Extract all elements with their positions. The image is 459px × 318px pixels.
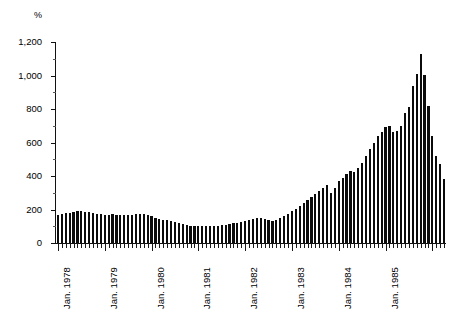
bar (357, 168, 359, 243)
x-axis-tick-label: Jan. 1984 (343, 267, 353, 309)
x-axis-minor-tick-mark (343, 244, 344, 248)
x-axis-minor-tick-mark (389, 244, 390, 248)
bar (80, 211, 82, 243)
x-axis-minor-tick-mark (128, 244, 129, 248)
x-axis-minor-tick-mark (124, 244, 125, 248)
bar (369, 149, 371, 243)
x-axis-minor-tick-mark (175, 244, 176, 248)
x-axis-major-tick-mark (152, 244, 153, 251)
x-axis-minor-tick-mark (358, 244, 359, 248)
bar (345, 174, 347, 243)
bar (193, 226, 195, 243)
x-axis-minor-tick-mark (230, 244, 231, 248)
x-axis-minor-tick-mark (155, 244, 156, 248)
x-axis-minor-tick-mark (409, 244, 410, 248)
x-axis-tick-label: Jan. 1981 (202, 267, 212, 309)
bar (213, 226, 215, 243)
x-axis-minor-tick-mark (276, 244, 277, 248)
y-axis-tick-mark (51, 243, 56, 244)
bar (150, 216, 152, 243)
x-axis-minor-tick-mark (257, 244, 258, 248)
bar (143, 214, 145, 243)
x-axis-minor-tick-mark (241, 244, 242, 248)
x-axis-major-tick-mark (292, 244, 293, 251)
bar (267, 220, 269, 243)
y-axis-minor-tick-mark (53, 193, 56, 194)
bar (412, 86, 414, 243)
bar (264, 219, 266, 243)
x-axis-minor-tick-mark (362, 244, 363, 248)
x-axis-minor-tick-mark (280, 244, 281, 248)
plot-area (56, 42, 446, 243)
x-axis-minor-tick-mark (214, 244, 215, 248)
bar (431, 136, 433, 243)
x-axis-minor-tick-mark (159, 244, 160, 248)
bar (384, 127, 386, 243)
x-axis-minor-tick-mark (187, 244, 188, 248)
x-axis-minor-tick-mark (378, 244, 379, 248)
bar (162, 220, 164, 243)
x-axis-minor-tick-mark (163, 244, 164, 248)
x-axis-minor-tick-mark (93, 244, 94, 248)
x-axis-minor-tick-mark (194, 244, 195, 248)
y-axis-tick-mark (51, 42, 56, 43)
bar (209, 226, 211, 243)
bar (135, 214, 137, 243)
bar (353, 172, 355, 243)
bar (334, 188, 336, 243)
bar (275, 220, 277, 243)
bar (228, 224, 230, 243)
bar (72, 212, 74, 243)
x-axis-minor-tick-mark (347, 244, 348, 248)
x-axis-minor-tick-mark (140, 244, 141, 248)
bar (108, 215, 110, 243)
x-axis-minor-tick-mark (421, 244, 422, 248)
bar (69, 213, 71, 243)
x-axis-minor-tick-mark (323, 244, 324, 248)
bar (123, 215, 125, 243)
x-axis-minor-tick-mark (167, 244, 168, 248)
x-axis-minor-tick-mark (85, 244, 86, 248)
bar (443, 179, 445, 243)
x-axis-minor-tick-mark (319, 244, 320, 248)
x-axis-tick-label: Jan. 1985 (390, 267, 400, 309)
y-axis-tick-mark (51, 109, 56, 110)
bar (248, 220, 250, 243)
bar (178, 223, 180, 243)
x-axis-tick-label: Jan. 1983 (296, 267, 306, 309)
bar (240, 222, 242, 243)
bar (182, 224, 184, 243)
bar (92, 213, 94, 243)
bar-chart: % 02004006008001,0001,200 Jan. 1978Jan. … (0, 0, 459, 318)
x-axis-minor-tick-mark (237, 244, 238, 248)
bar (310, 197, 312, 243)
bar (388, 126, 390, 243)
bar (197, 226, 199, 243)
x-axis-minor-tick-mark (374, 244, 375, 248)
y-axis-tick-label: 400 (26, 171, 42, 181)
bar (408, 107, 410, 243)
bar (377, 136, 379, 243)
x-axis-minor-tick-mark (405, 244, 406, 248)
x-axis-minor-tick-mark (440, 244, 441, 248)
bar (57, 215, 59, 243)
bar (322, 188, 324, 243)
bar (373, 143, 375, 244)
bar (416, 74, 418, 243)
bar (420, 54, 422, 243)
x-axis-minor-tick-mark (304, 244, 305, 248)
x-axis-line (55, 243, 446, 244)
bar (61, 214, 63, 243)
y-axis-minor-tick-mark (53, 226, 56, 227)
bar (423, 75, 425, 243)
x-axis-minor-tick-mark (417, 244, 418, 248)
x-axis-major-tick-mark (245, 244, 246, 251)
x-axis-minor-tick-mark (222, 244, 223, 248)
bar (225, 225, 227, 243)
x-axis-minor-tick-mark (261, 244, 262, 248)
x-axis-minor-tick-mark (249, 244, 250, 248)
bar (306, 200, 308, 243)
bar (139, 214, 141, 243)
x-axis-minor-tick-mark (311, 244, 312, 248)
x-axis-minor-tick-mark (226, 244, 227, 248)
